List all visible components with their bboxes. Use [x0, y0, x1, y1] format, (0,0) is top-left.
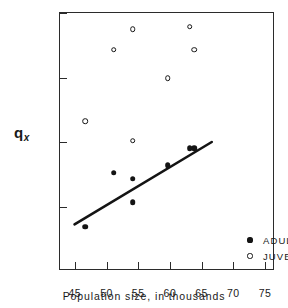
data-point-juveniles — [187, 24, 193, 30]
plot-area: 0.20 0.15 0.10 0.05 0 45 50 55 60 65 70 … — [59, 12, 274, 270]
data-point-juveniles — [111, 47, 117, 53]
scatter-plot-figure: 0.20 0.15 0.10 0.05 0 45 50 55 60 65 70 … — [0, 0, 288, 308]
data-point-juveniles — [165, 75, 171, 81]
data-point-adults — [111, 170, 117, 176]
legend-label-juveniles: JUVENILES — [263, 251, 288, 262]
y-axis-label-subscript: x — [24, 132, 30, 143]
x-axis-label: Population size, in thousands — [63, 290, 226, 302]
data-point-adults — [165, 163, 171, 169]
data-point-adults — [191, 145, 197, 151]
x-axis-tick-label: 70 — [227, 287, 240, 299]
data-point-adults — [130, 176, 136, 182]
legend-item-adults: ADULTS — [243, 232, 288, 248]
data-point-adults — [82, 224, 88, 230]
data-point-adults — [130, 199, 136, 205]
data-point-juveniles — [82, 118, 88, 124]
data-point-juveniles — [191, 47, 197, 53]
legend-label-adults: ADULTS — [263, 235, 288, 246]
legend: ADULTS JUVENILES — [243, 232, 288, 264]
legend-item-juveniles: JUVENILES — [243, 248, 288, 264]
y-axis-label-text: q — [14, 124, 24, 141]
data-point-juveniles — [130, 26, 136, 32]
filled-circle-icon — [243, 237, 257, 242]
y-axis-label: qx — [14, 124, 30, 143]
data-point-juveniles — [130, 138, 136, 144]
x-axis-tick-label: 75 — [259, 287, 272, 299]
open-circle-icon — [243, 253, 257, 258]
